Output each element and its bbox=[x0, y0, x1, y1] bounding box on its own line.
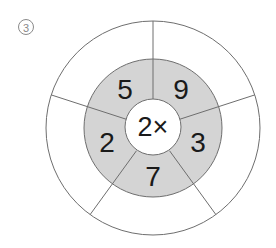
segment-value-top-left: 5 bbox=[117, 74, 133, 105]
center-multiplier-label: 2× bbox=[138, 112, 169, 142]
segment-value-left: 2 bbox=[99, 127, 115, 158]
segment-value-bottom: 7 bbox=[145, 161, 161, 192]
multiplication-wheel: 2× 5 9 3 7 2 bbox=[0, 0, 276, 248]
segment-value-top-right: 9 bbox=[173, 74, 189, 105]
segment-value-right: 3 bbox=[190, 127, 206, 158]
